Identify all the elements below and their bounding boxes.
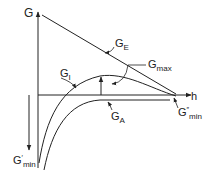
curve-g-a <box>44 100 170 170</box>
g-a-leader <box>108 102 112 110</box>
g-e-leader <box>105 47 114 53</box>
g-min-double-prime-label: G″min <box>178 106 202 121</box>
diagram-canvas <box>0 0 213 175</box>
g-e-label: GE <box>115 38 129 52</box>
curve-g-i <box>39 75 176 163</box>
g-min-prime-label: G′min <box>13 154 36 169</box>
g-a-label: GA <box>111 111 125 125</box>
g-max-leader <box>112 65 146 84</box>
g-i-label: GI <box>60 68 71 82</box>
curve-g-e <box>42 15 176 94</box>
g-axis-label: G <box>24 7 33 19</box>
h-axis-label: h <box>191 91 197 102</box>
gibbs-energy-diagram: G h GE GI GA Gmax G″min G′min <box>0 0 213 175</box>
g-max-label: Gmax <box>148 59 172 73</box>
